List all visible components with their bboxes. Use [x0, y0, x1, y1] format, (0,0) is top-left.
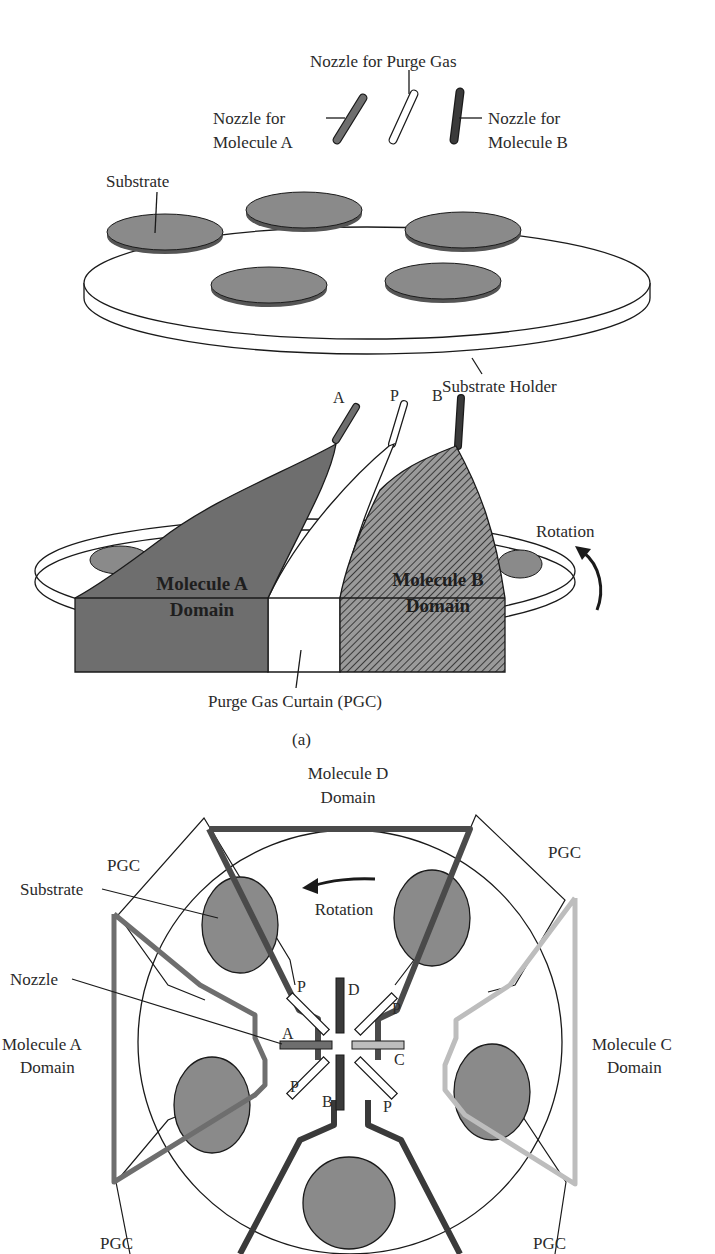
- molecule-a-domain-label-b: Molecule A: [2, 1035, 83, 1054]
- pgc-label-bottom-left: PGC: [100, 1234, 133, 1253]
- substrate-holder: Substrate Substrate Holder: [84, 172, 650, 396]
- molecule-c-domain-label: Molecule C: [592, 1035, 672, 1054]
- pgc-label-top-right: PGC: [548, 843, 581, 862]
- ald-spatial-diagram: Nozzle for Purge Gas Nozzle for Molecule…: [0, 0, 715, 1254]
- nozzle-b-label: Nozzle for: [488, 109, 561, 128]
- nozzle-tag-c: C: [394, 1051, 405, 1068]
- pgc-label-top-left: PGC: [107, 856, 140, 875]
- molecule-d-domain-label-2: Domain: [321, 788, 376, 807]
- nozzle-a-label: Nozzle for: [213, 109, 286, 128]
- top-view-diagram: Molecule D Domain: [2, 764, 672, 1254]
- pgc-label: Purge Gas Curtain (PGC): [208, 692, 382, 711]
- part-a-caption: (a): [292, 730, 311, 749]
- substrate-label: Substrate: [106, 172, 169, 191]
- molecule-c-domain-label-2: Domain: [607, 1058, 662, 1077]
- domain-illustration: A P B Molecule A Domain Molecule B Domai…: [35, 387, 601, 749]
- nozzle-tag-a: A: [333, 389, 345, 406]
- nozzle-a-label-2: Molecule A: [213, 133, 294, 152]
- nozzle-b-label-2: Molecule B: [488, 133, 568, 152]
- center-nozzle-array: A D C B P P P P: [280, 978, 405, 1115]
- nozzle-tag-b: B: [322, 1093, 333, 1110]
- rotation-arrow-icon: [583, 552, 601, 610]
- nozzle-tag-b: B: [432, 387, 443, 404]
- substrate-holder-label: Substrate Holder: [442, 377, 557, 396]
- nozzle-tag-p-2: P: [392, 1000, 401, 1017]
- nozzle-tag-p-1: P: [297, 978, 306, 995]
- substrate-label-b: Substrate: [20, 880, 83, 899]
- pgc-label-bottom-right: PGC: [533, 1234, 566, 1253]
- molecule-a-domain-label-2: Domain: [170, 599, 235, 620]
- nozzle-group-top: Nozzle for Purge Gas Nozzle for Molecule…: [213, 52, 568, 152]
- substrate-circles: [174, 870, 530, 1249]
- rotation-arrow-icon-b: [313, 879, 375, 886]
- molecule-a-domain-label: Molecule A: [156, 573, 248, 594]
- molecule-b-domain-label-2: Domain: [406, 595, 471, 616]
- molecule-d-domain-label: Molecule D: [308, 764, 389, 783]
- rotation-label: Rotation: [536, 522, 595, 541]
- nozzle-label-b: Nozzle: [10, 970, 58, 989]
- nozzle-tag-p-4: P: [383, 1098, 392, 1115]
- molecule-b-domain-label: Molecule B: [392, 569, 484, 590]
- purge-nozzle-label: Nozzle for Purge Gas: [310, 52, 457, 71]
- molecule-a-domain-label-b-2: Domain: [20, 1058, 75, 1077]
- nozzle-tag-p: P: [390, 387, 399, 404]
- nozzle-tag-p-3: P: [290, 1078, 299, 1095]
- nozzle-tag-a: A: [282, 1025, 294, 1042]
- nozzle-tag-d: D: [348, 981, 360, 998]
- rotation-label-b: Rotation: [315, 900, 374, 919]
